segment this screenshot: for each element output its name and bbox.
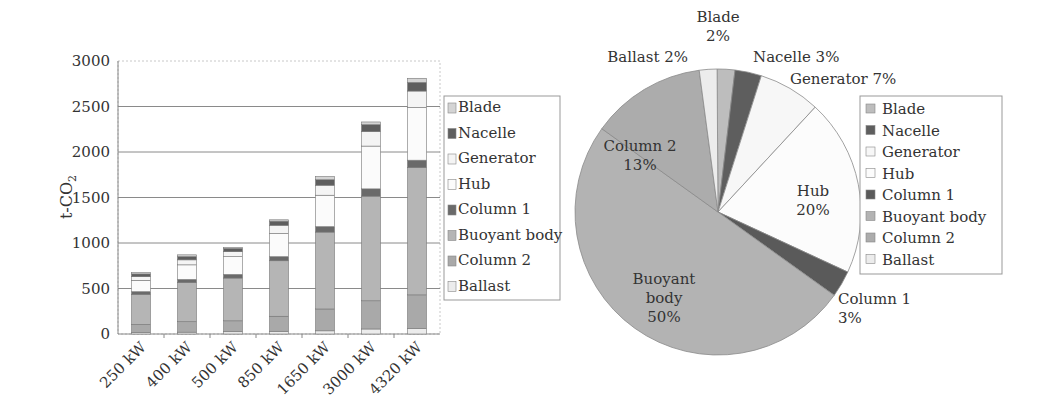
legend-label: Nacelle — [458, 124, 516, 142]
legend-swatch — [448, 231, 456, 241]
bar-segment — [132, 324, 151, 332]
bar-segment — [132, 277, 151, 281]
bar-segment — [362, 122, 381, 125]
bar-segment — [408, 167, 427, 294]
legend-label: Blade — [882, 100, 925, 118]
legend-swatch — [448, 256, 456, 266]
legend-swatch — [448, 205, 456, 215]
bar-segment — [362, 329, 381, 334]
bar-segment — [132, 274, 151, 277]
legend-label: Generator — [882, 143, 961, 161]
bar-segment — [178, 260, 197, 265]
y-tick-label: 2000 — [72, 143, 110, 161]
bar-segment — [270, 220, 289, 221]
legend-swatch — [448, 103, 456, 113]
legend-label: Blade — [458, 98, 501, 116]
x-tick-label: 400 kW — [142, 338, 196, 392]
bar-segment — [408, 160, 427, 167]
legend-swatch — [866, 104, 875, 113]
bar-segment — [132, 292, 151, 295]
legend-label: Buoyant body — [458, 226, 563, 244]
pie-slice-label: Generator 7% — [790, 70, 896, 88]
pie-slice-label: Ballast 2% — [607, 48, 688, 66]
pie-chart: Blade2%Nacelle 3%Generator 7%Hub20%Colum… — [570, 0, 1048, 407]
legend-label: Column 2 — [882, 229, 955, 247]
bar-segment — [270, 257, 289, 261]
pie-slice-label: Hub20% — [796, 182, 829, 219]
legend-label: Hub — [458, 175, 490, 193]
y-axis-label: t-CO2 — [57, 175, 79, 219]
legend-label: Ballast — [882, 251, 934, 269]
legend-label: Hub — [882, 165, 914, 183]
legend-label: Buoyant body — [882, 208, 987, 226]
bar-segment — [132, 273, 151, 274]
bar-segment — [316, 309, 335, 331]
legend-swatch — [866, 190, 875, 199]
bar-stack — [408, 78, 427, 334]
bar-segment — [362, 189, 381, 196]
bar-segment — [316, 180, 335, 185]
legend-swatch — [866, 147, 875, 156]
bar-segment — [224, 248, 243, 251]
bar-segment — [408, 295, 427, 329]
bar-segment — [224, 332, 243, 334]
legend-label: Column 2 — [458, 251, 531, 269]
bar-segment — [178, 279, 197, 282]
bar-segment — [178, 255, 197, 257]
y-tick-label: 500 — [81, 280, 110, 298]
bar-segment — [224, 321, 243, 332]
bar-segment — [316, 227, 335, 232]
bar-segment — [270, 261, 289, 317]
bar-segment — [362, 132, 381, 147]
legend-swatch — [448, 129, 456, 139]
bar-segment — [362, 146, 381, 189]
pie-slice-label: Column 13% — [838, 290, 911, 327]
bar-segment — [408, 91, 427, 107]
bar-segment — [178, 322, 197, 332]
y-tick-label: 0 — [100, 325, 110, 343]
bar-stack — [132, 273, 151, 334]
bar-segment — [408, 82, 427, 91]
bar-segment — [224, 257, 243, 275]
bar-stack — [178, 255, 197, 334]
legend-swatch — [866, 169, 875, 178]
bar-segment — [224, 278, 243, 321]
y-tick-label: 3000 — [72, 52, 110, 70]
bar-segment — [316, 232, 335, 309]
bar-segment — [132, 294, 151, 324]
bar-segment — [408, 78, 427, 82]
bar-segment — [362, 125, 381, 132]
bar-stack — [362, 122, 381, 334]
bar-segment — [270, 233, 289, 256]
legend-label: Generator — [458, 149, 537, 167]
legend-swatch — [448, 282, 456, 292]
legend-label: Ballast — [458, 277, 510, 295]
bar-segment — [408, 107, 427, 160]
bar-segment — [132, 280, 151, 291]
bar-segment — [178, 283, 197, 322]
legend-swatch — [866, 255, 875, 264]
bar-segment — [316, 185, 335, 195]
bar-stack — [224, 248, 243, 334]
legend-label: Column 1 — [882, 186, 955, 204]
bar-segment — [178, 265, 197, 280]
pie-chart-canvas: Blade2%Nacelle 3%Generator 7%Hub20%Colum… — [570, 0, 1048, 407]
bar-segment — [362, 301, 381, 329]
bar-stack — [270, 220, 289, 334]
bar-segment — [316, 195, 335, 226]
pie-slice-label: Nacelle 3% — [753, 48, 839, 66]
bar-chart-canvas: 050010001500200025003000t-CO2250 kW400 k… — [0, 0, 570, 407]
bar-segment — [270, 221, 289, 225]
legend-swatch — [866, 233, 875, 242]
legend-swatch — [448, 180, 456, 190]
bar-segment — [224, 252, 243, 257]
bar-segment — [270, 316, 289, 331]
bar-segment — [224, 274, 243, 278]
stacked-bar-chart: 050010001500200025003000t-CO2250 kW400 k… — [0, 0, 570, 407]
bar-segment — [178, 257, 197, 260]
y-tick-label: 2500 — [72, 98, 110, 116]
legend-swatch — [866, 212, 875, 221]
bar-segment — [316, 331, 335, 334]
bar-segment — [316, 177, 335, 180]
bar-segment — [408, 329, 427, 334]
